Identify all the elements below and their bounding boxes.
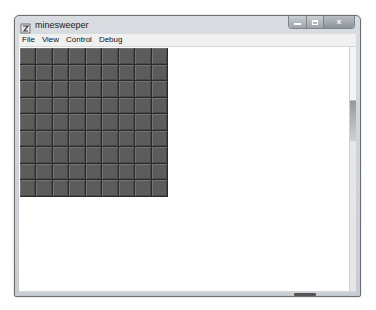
- mine-cell[interactable]: [86, 131, 101, 147]
- mine-cell[interactable]: [102, 65, 117, 81]
- mine-cell[interactable]: [119, 48, 134, 64]
- mine-cell[interactable]: [135, 180, 150, 196]
- mine-cell[interactable]: [36, 131, 51, 147]
- mine-cell[interactable]: [102, 81, 117, 97]
- mine-cell[interactable]: [152, 147, 167, 163]
- mine-cell[interactable]: [20, 131, 35, 147]
- scrollbar-thumb[interactable]: [350, 47, 356, 101]
- mine-cell[interactable]: [152, 48, 167, 64]
- vertical-scrollbar[interactable]: [349, 47, 356, 291]
- minefield-grid: [20, 48, 168, 197]
- mine-cell[interactable]: [36, 180, 51, 196]
- mine-cell[interactable]: [135, 81, 150, 97]
- mine-cell[interactable]: [69, 48, 84, 64]
- mine-cell[interactable]: [152, 180, 167, 196]
- mine-cell[interactable]: [69, 114, 84, 130]
- minesweeper-app-icon[interactable]: [20, 20, 31, 31]
- mine-cell[interactable]: [119, 164, 134, 180]
- mine-cell[interactable]: [119, 81, 134, 97]
- mine-cell[interactable]: [152, 81, 167, 97]
- window-bottom-border: [19, 291, 356, 296]
- mine-cell[interactable]: [53, 131, 68, 147]
- mine-cell[interactable]: [135, 147, 150, 163]
- maximize-icon: [312, 20, 318, 25]
- menu-view[interactable]: View: [39, 34, 63, 46]
- mine-cell[interactable]: [69, 81, 84, 97]
- mine-cell[interactable]: [69, 65, 84, 81]
- mine-cell[interactable]: [135, 65, 150, 81]
- mine-cell[interactable]: [20, 98, 35, 114]
- mine-cell[interactable]: [36, 164, 51, 180]
- mine-cell[interactable]: [69, 131, 84, 147]
- mine-cell[interactable]: [53, 180, 68, 196]
- mine-cell[interactable]: [86, 65, 101, 81]
- mine-cell[interactable]: [53, 98, 68, 114]
- mine-cell[interactable]: [69, 180, 84, 196]
- mine-cell[interactable]: [53, 164, 68, 180]
- mine-cell[interactable]: [119, 131, 134, 147]
- mine-cell[interactable]: [119, 180, 134, 196]
- mine-cell[interactable]: [69, 98, 84, 114]
- mine-cell[interactable]: [36, 81, 51, 97]
- mine-cell[interactable]: [36, 48, 51, 64]
- mine-cell[interactable]: [102, 131, 117, 147]
- mine-cell[interactable]: [53, 48, 68, 64]
- mine-cell[interactable]: [135, 98, 150, 114]
- mine-cell[interactable]: [86, 114, 101, 130]
- mine-cell[interactable]: [86, 48, 101, 64]
- mine-cell[interactable]: [20, 65, 35, 81]
- menu-debug[interactable]: Debug: [96, 34, 127, 46]
- mine-cell[interactable]: [86, 81, 101, 97]
- mine-cell[interactable]: [152, 164, 167, 180]
- mine-cell[interactable]: [20, 180, 35, 196]
- mine-cell[interactable]: [36, 98, 51, 114]
- scrollbar-track-shade: [350, 101, 356, 141]
- mine-cell[interactable]: [102, 180, 117, 196]
- mine-cell[interactable]: [20, 48, 35, 64]
- menu-file[interactable]: File: [19, 34, 39, 46]
- mine-cell[interactable]: [20, 147, 35, 163]
- mine-cell[interactable]: [119, 98, 134, 114]
- mine-cell[interactable]: [119, 114, 134, 130]
- mine-cell[interactable]: [53, 81, 68, 97]
- maximize-button[interactable]: [307, 16, 324, 28]
- mine-cell[interactable]: [69, 164, 84, 180]
- mine-cell[interactable]: [152, 114, 167, 130]
- minimize-icon: [294, 23, 301, 25]
- mine-cell[interactable]: [135, 48, 150, 64]
- mine-cell[interactable]: [102, 147, 117, 163]
- close-button[interactable]: x: [324, 16, 354, 28]
- mine-cell[interactable]: [86, 147, 101, 163]
- mine-cell[interactable]: [102, 164, 117, 180]
- client-area: [19, 46, 356, 291]
- mine-cell[interactable]: [20, 164, 35, 180]
- resize-grip-icon[interactable]: [294, 293, 316, 296]
- mine-cell[interactable]: [119, 65, 134, 81]
- mine-cell[interactable]: [36, 114, 51, 130]
- mine-cell[interactable]: [119, 147, 134, 163]
- mine-cell[interactable]: [53, 114, 68, 130]
- mine-cell[interactable]: [102, 98, 117, 114]
- title-bar[interactable]: minesweeper x: [15, 16, 360, 34]
- mine-cell[interactable]: [135, 114, 150, 130]
- mine-cell[interactable]: [86, 164, 101, 180]
- mine-cell[interactable]: [86, 180, 101, 196]
- mine-cell[interactable]: [69, 147, 84, 163]
- minimize-button[interactable]: [289, 16, 307, 28]
- mine-cell[interactable]: [53, 147, 68, 163]
- mine-cell[interactable]: [152, 131, 167, 147]
- mine-cell[interactable]: [152, 98, 167, 114]
- mine-cell[interactable]: [102, 48, 117, 64]
- mine-cell[interactable]: [20, 114, 35, 130]
- mine-cell[interactable]: [86, 98, 101, 114]
- mine-cell[interactable]: [135, 131, 150, 147]
- mine-cell[interactable]: [53, 65, 68, 81]
- mine-cell[interactable]: [36, 147, 51, 163]
- mine-cell[interactable]: [20, 81, 35, 97]
- close-icon: x: [337, 18, 341, 26]
- menu-control[interactable]: Control: [63, 34, 96, 46]
- mine-cell[interactable]: [135, 164, 150, 180]
- mine-cell[interactable]: [36, 65, 51, 81]
- mine-cell[interactable]: [102, 114, 117, 130]
- mine-cell[interactable]: [152, 65, 167, 81]
